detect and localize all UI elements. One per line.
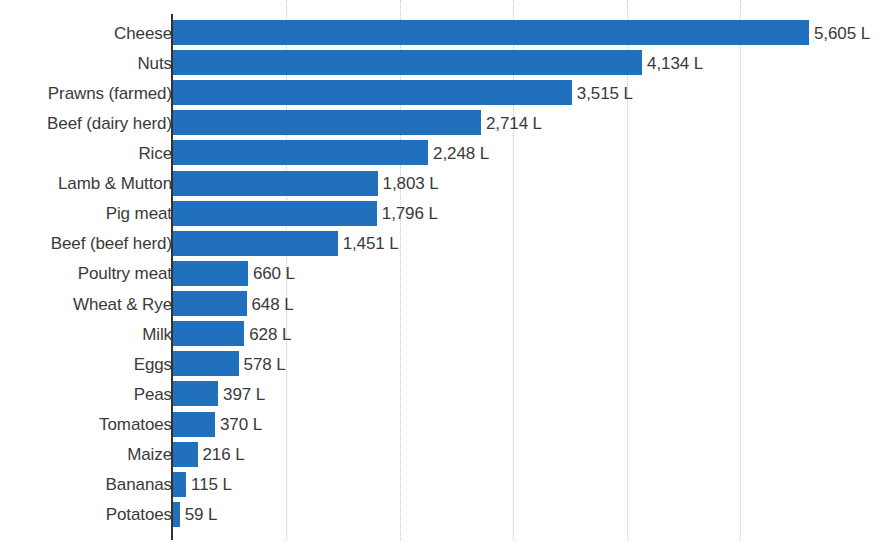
value-label: 3,515 L xyxy=(572,83,633,102)
value-label: 578 L xyxy=(239,354,286,373)
bar-rows: Cheese5,605 LNuts4,134 LPrawns (farmed)3… xyxy=(0,0,895,552)
category-label: Eggs xyxy=(134,354,172,373)
value-label: 648 L xyxy=(247,294,294,313)
value-label: 2,248 L xyxy=(428,143,489,162)
bar-row: Poultry meat660 L xyxy=(0,261,895,286)
bar xyxy=(173,171,378,196)
bar-row: Peas397 L xyxy=(0,381,895,406)
bar-row: Milk628 L xyxy=(0,321,895,346)
bar xyxy=(173,412,215,437)
value-label: 1,796 L xyxy=(377,204,438,223)
bar-row: Nuts4,134 L xyxy=(0,50,895,75)
bar-row: Cheese5,605 L xyxy=(0,20,895,45)
bar xyxy=(173,201,377,226)
value-label: 5,605 L xyxy=(809,23,870,42)
bar xyxy=(173,472,186,497)
value-label: 115 L xyxy=(186,475,232,494)
category-label: Potatoes xyxy=(106,505,172,524)
value-label: 1,803 L xyxy=(378,174,439,193)
bar xyxy=(173,50,642,75)
category-label: Milk xyxy=(142,324,172,343)
category-label: Tomatoes xyxy=(99,415,172,434)
bar-row: Lamb & Mutton1,803 L xyxy=(0,171,895,196)
category-label: Bananas xyxy=(106,475,172,494)
bar-row: Wheat & Rye648 L xyxy=(0,291,895,316)
value-label: 2,714 L xyxy=(481,113,542,132)
category-label: Lamb & Mutton xyxy=(58,174,172,193)
category-label: Rice xyxy=(138,143,172,162)
value-label: 628 L xyxy=(244,324,291,343)
bar xyxy=(173,291,247,316)
value-label: 660 L xyxy=(248,264,295,283)
category-label: Peas xyxy=(134,384,172,403)
plot-area: Cheese5,605 LNuts4,134 LPrawns (farmed)3… xyxy=(0,0,895,552)
bar-row: Maize216 L xyxy=(0,442,895,467)
bar xyxy=(173,140,428,165)
bar-row: Bananas115 L xyxy=(0,472,895,497)
bar-row: Beef (dairy herd)2,714 L xyxy=(0,110,895,135)
category-label: Pig meat xyxy=(106,204,172,223)
bar xyxy=(173,351,239,376)
category-label: Nuts xyxy=(137,53,172,72)
category-label: Cheese xyxy=(114,23,172,42)
value-label: 216 L xyxy=(198,445,245,464)
bar-row: Potatoes59 L xyxy=(0,502,895,527)
category-label: Beef (dairy herd) xyxy=(47,113,172,132)
value-label: 59 L xyxy=(180,505,218,524)
bar xyxy=(173,502,180,527)
bar-row: Rice2,248 L xyxy=(0,140,895,165)
category-label: Poultry meat xyxy=(78,264,172,283)
bar xyxy=(173,110,481,135)
bar xyxy=(173,381,218,406)
value-label: 397 L xyxy=(218,384,265,403)
bar-row: Tomatoes370 L xyxy=(0,412,895,437)
category-label: Beef (beef herd) xyxy=(51,234,172,253)
bar xyxy=(173,321,244,346)
bar-row: Beef (beef herd)1,451 L xyxy=(0,231,895,256)
category-label: Wheat & Rye xyxy=(73,294,172,313)
bar xyxy=(173,20,809,45)
value-label: 370 L xyxy=(215,415,262,434)
bar xyxy=(173,80,572,105)
bar xyxy=(173,261,248,286)
category-label: Prawns (farmed) xyxy=(48,83,172,102)
value-label: 4,134 L xyxy=(642,53,703,72)
bar-row: Pig meat1,796 L xyxy=(0,201,895,226)
bar-chart: Cheese5,605 LNuts4,134 LPrawns (farmed)3… xyxy=(0,0,895,552)
bar xyxy=(173,231,338,256)
value-label: 1,451 L xyxy=(338,234,399,253)
bar-row: Eggs578 L xyxy=(0,351,895,376)
bar xyxy=(173,442,198,467)
category-label: Maize xyxy=(127,445,172,464)
bar-row: Prawns (farmed)3,515 L xyxy=(0,80,895,105)
